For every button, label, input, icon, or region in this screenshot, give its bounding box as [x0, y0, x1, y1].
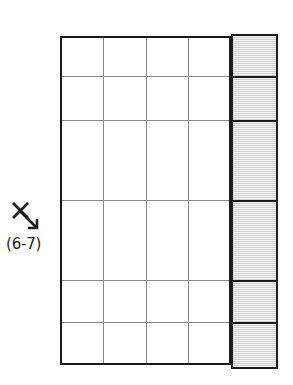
- x-with-down-right-arrow-icon: [8, 198, 52, 238]
- shaded-column: [231, 34, 278, 369]
- shaded-column-divider: [233, 280, 276, 282]
- shaded-column-divider: [233, 76, 276, 78]
- grid-diagram-figure: (6-7): [0, 0, 293, 385]
- grid-column-line: [146, 38, 147, 363]
- annotation-group: (6-7): [6, 198, 58, 266]
- grid-column-line: [103, 38, 104, 363]
- main-grid: [60, 36, 231, 365]
- shaded-column-divider: [233, 120, 276, 122]
- grid-column-line: [188, 38, 189, 363]
- shaded-column-divider: [233, 322, 276, 324]
- shaded-column-divider: [233, 200, 276, 202]
- annotation-label: (6-7): [6, 236, 58, 253]
